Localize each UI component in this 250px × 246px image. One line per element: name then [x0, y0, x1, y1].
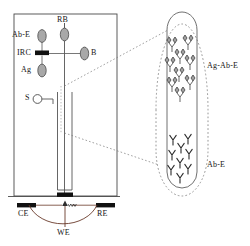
label-irc: IRC	[17, 49, 31, 57]
diagram-svg	[0, 0, 250, 246]
label-s: S	[25, 94, 30, 102]
label-rb: RB	[57, 16, 68, 24]
we-arrow-icon	[62, 201, 68, 207]
cell-bottom-arc	[29, 205, 97, 224]
label-re: RE	[97, 210, 108, 218]
re-electrode-pad	[96, 203, 115, 207]
reaction-cell-body	[14, 14, 117, 196]
figure-canvas: Ab-E RB IRC B Ag S CE RE WE Ag-Ab-E Ab-E	[0, 0, 250, 246]
ab-e-ellipse-icon	[38, 30, 46, 43]
label-we: WE	[57, 229, 70, 237]
label-b: B	[91, 49, 97, 57]
ce-electrode-pad	[17, 203, 36, 207]
rb-ellipse-icon	[60, 28, 68, 41]
label-ag-ab-e: Ag-Ab-E	[207, 62, 238, 70]
b-ellipse-icon	[80, 47, 88, 60]
ag-ellipse-icon	[38, 64, 46, 77]
label-ce: CE	[18, 210, 29, 218]
label-ab-e: Ab-E	[12, 31, 30, 39]
we-electrode-pad	[57, 193, 73, 197]
irc-bar-icon	[35, 51, 49, 56]
label-ag: Ag	[21, 66, 31, 74]
s-circle-icon	[33, 95, 42, 104]
label-callout-ab-e: Ab-E	[207, 161, 225, 169]
